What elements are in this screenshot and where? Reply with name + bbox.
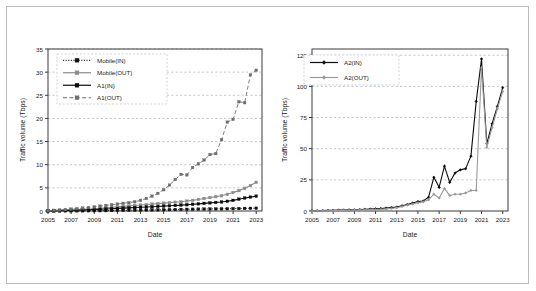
y-tick-label: 35	[36, 46, 43, 53]
y-axis-title: Traffic volume (Tbps)	[19, 98, 27, 162]
data-point	[238, 198, 241, 201]
data-point	[151, 205, 154, 208]
data-point	[151, 209, 154, 212]
data-point	[174, 208, 177, 211]
data-point	[99, 205, 102, 208]
data-point	[104, 204, 107, 207]
x-tick-label: 2011	[369, 216, 383, 223]
x-tick-label: 2021	[226, 216, 240, 223]
x-tick-label: 2015	[157, 216, 171, 223]
data-point	[52, 209, 55, 212]
data-point	[197, 198, 200, 201]
data-point	[226, 207, 229, 210]
y-tick-label: 0	[304, 208, 308, 215]
data-point	[214, 208, 217, 211]
y-tick-label: 50	[300, 145, 307, 152]
data-point	[232, 191, 235, 194]
data-point	[75, 83, 79, 87]
chart-panel-left: 0510152025303520052007200920112013201520…	[17, 7, 279, 283]
data-point	[238, 207, 241, 210]
y-tick-label: 25	[300, 176, 307, 183]
x-tick-label: 2005	[305, 216, 319, 223]
data-point	[87, 206, 90, 209]
data-point	[174, 178, 177, 181]
x-axis-title: Date	[403, 231, 418, 238]
data-point	[139, 199, 142, 202]
data-point	[93, 208, 96, 211]
y-axis-title: Traffic volume (Tbps)	[281, 98, 289, 162]
x-tick-label: 2023	[496, 216, 510, 223]
data-point	[214, 195, 217, 198]
data-point	[122, 207, 125, 210]
data-point	[209, 153, 212, 156]
data-point	[191, 208, 194, 211]
data-point	[157, 208, 160, 211]
data-point	[459, 193, 462, 196]
data-point	[321, 209, 324, 212]
data-point	[232, 207, 235, 210]
data-point	[501, 86, 504, 89]
y-tick-label: 30	[36, 69, 43, 76]
y-tick-label: 10	[36, 161, 43, 168]
data-point	[475, 189, 478, 192]
data-point	[128, 207, 131, 210]
data-point	[168, 201, 171, 204]
data-point	[475, 100, 478, 103]
data-point	[58, 209, 61, 212]
data-point	[157, 205, 160, 208]
data-point	[122, 202, 125, 205]
data-point	[139, 209, 142, 212]
legend-label: A2(OUT)	[344, 74, 369, 81]
data-point	[311, 210, 314, 213]
data-point	[145, 206, 148, 209]
data-point	[185, 208, 188, 211]
data-point	[93, 205, 96, 208]
data-point	[128, 201, 131, 204]
data-point	[133, 209, 136, 212]
x-tick-label: 2011	[111, 216, 125, 223]
data-point	[174, 204, 177, 207]
data-point	[145, 209, 148, 212]
data-point	[443, 165, 446, 168]
data-point	[203, 208, 206, 211]
data-point	[243, 207, 246, 210]
legend-label: A1(OUT)	[97, 94, 122, 101]
data-point	[180, 173, 183, 176]
data-point	[232, 118, 235, 121]
data-point	[243, 197, 246, 200]
data-point	[249, 184, 252, 187]
data-point	[185, 174, 188, 177]
x-tick-label: 2021	[475, 216, 489, 223]
x-tick-label: 2007	[64, 216, 78, 223]
data-point	[180, 208, 183, 211]
data-point	[243, 187, 246, 190]
data-point	[226, 200, 229, 203]
data-point	[209, 202, 212, 205]
data-point	[145, 197, 148, 200]
legend-label: A1(IN)	[97, 82, 115, 89]
data-point	[209, 208, 212, 211]
data-point	[316, 209, 319, 212]
data-point	[255, 207, 258, 210]
data-point	[197, 202, 200, 205]
data-point	[162, 202, 165, 205]
data-point	[220, 194, 223, 197]
data-point	[70, 208, 73, 211]
data-point	[133, 200, 136, 203]
y-tick-label: 15	[36, 138, 43, 145]
data-point	[76, 207, 79, 210]
data-point	[191, 203, 194, 206]
data-point	[162, 205, 165, 208]
data-point	[220, 207, 223, 210]
y-axis: 05101520253035	[36, 46, 48, 215]
screenshot-page: 0510152025303520052007200920112013201520…	[0, 0, 536, 291]
data-point	[214, 201, 217, 204]
data-point	[47, 209, 50, 212]
data-point	[168, 208, 171, 211]
data-point	[110, 207, 113, 210]
data-point	[174, 201, 177, 204]
y-tick-label: 20	[36, 115, 43, 122]
data-point	[197, 208, 200, 211]
y-tick-label: 25	[36, 92, 43, 99]
data-point	[133, 206, 136, 209]
